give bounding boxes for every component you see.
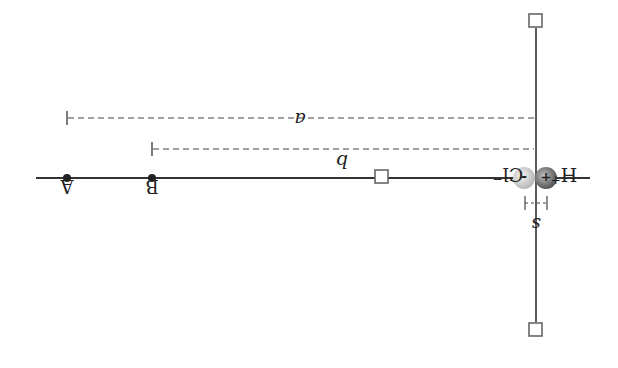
- top-handle[interactable]: [529, 14, 542, 27]
- anion-sign: -: [521, 170, 527, 186]
- bottom-handle[interactable]: [529, 323, 542, 336]
- point-a-label: A: [60, 176, 75, 197]
- dipole-diagram: A B a b s H+ Cl− + -: [0, 0, 618, 368]
- point-b-label: B: [145, 176, 158, 197]
- axis-handle[interactable]: [375, 170, 388, 183]
- cation-sign: +: [541, 170, 552, 185]
- anion-label: Cl−: [493, 164, 524, 187]
- separation-label: s: [531, 214, 540, 235]
- distance-b-label: b: [336, 151, 348, 173]
- distance-a-label: a: [294, 109, 305, 131]
- cation-label: H+: [551, 164, 578, 187]
